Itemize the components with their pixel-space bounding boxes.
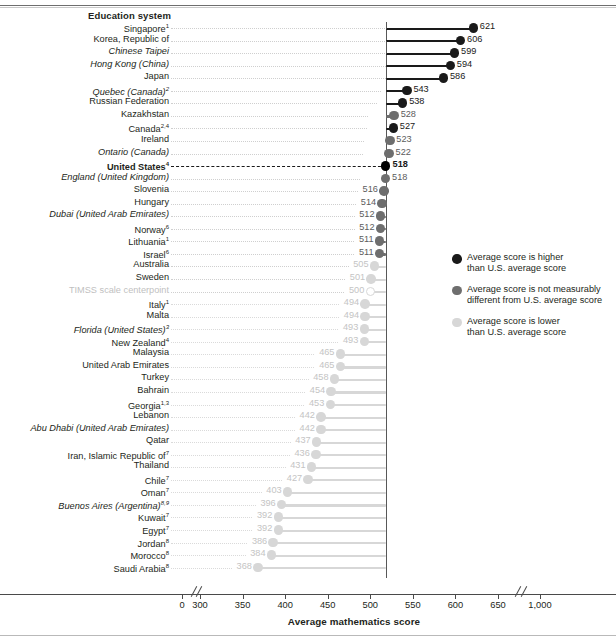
value-dot — [469, 23, 479, 33]
row-label: Sweden — [0, 272, 169, 283]
value-dot — [398, 98, 408, 108]
value-label: 528 — [401, 109, 416, 120]
value-dot — [316, 425, 326, 435]
x-axis-line — [0, 594, 616, 595]
value-dot — [360, 337, 370, 347]
x-tick-label: 550 — [405, 600, 421, 610]
math-score-chart: Education system Singapore1621Korea, Rep… — [0, 0, 616, 636]
row-label: Chinese Taipei — [0, 46, 169, 57]
leader-line — [171, 216, 355, 218]
value-label: 403 — [262, 485, 282, 496]
value-label: 493 — [338, 335, 358, 346]
value-dot — [274, 525, 284, 535]
legend-item: Average score is higherthan U.S. average… — [452, 252, 616, 275]
value-label: 431 — [286, 460, 306, 471]
leader-line — [171, 179, 360, 181]
value-label: 505 — [349, 259, 369, 270]
value-dot — [267, 550, 277, 560]
value-dot — [316, 412, 326, 422]
leader-line — [171, 430, 295, 432]
value-label: 514 — [356, 197, 376, 208]
row-label: Kazakhstan — [0, 109, 169, 120]
row-label: Bahrain — [0, 385, 169, 396]
value-dot — [381, 161, 391, 171]
row-label: Abu Dhabi (United Arab Emirates) — [0, 423, 169, 434]
x-tick — [243, 594, 244, 599]
x-tick — [370, 594, 371, 599]
value-label: 501 — [345, 272, 365, 283]
value-stem — [321, 429, 386, 431]
value-stem — [386, 40, 461, 42]
row-label: Malaysia — [0, 347, 169, 358]
value-dot — [389, 111, 399, 121]
leader-line — [171, 292, 344, 294]
value-dot — [312, 437, 322, 447]
value-stem — [273, 542, 385, 544]
value-label: 594 — [457, 59, 472, 70]
value-dot — [376, 224, 386, 234]
leader-line — [171, 492, 262, 494]
leader-line — [171, 354, 314, 356]
row-label: Hungary — [0, 197, 169, 208]
value-dot — [274, 512, 284, 522]
value-label: 527 — [400, 121, 415, 132]
value-dot — [336, 349, 346, 359]
leader-line — [171, 279, 345, 281]
x-axis-title: Average mathematics score — [0, 616, 616, 627]
leader-line — [171, 342, 338, 344]
value-label: 606 — [467, 34, 482, 45]
value-label: 386 — [247, 536, 267, 547]
value-label: 518 — [393, 159, 408, 170]
value-label: 523 — [396, 134, 411, 145]
value-label: 599 — [461, 46, 476, 57]
value-stem — [288, 492, 386, 494]
x-tick — [413, 594, 414, 599]
value-dot — [326, 400, 336, 410]
legend-dot — [452, 318, 462, 328]
x-tick — [498, 594, 499, 599]
value-label: 543 — [413, 84, 428, 95]
row-label: Saudi Arabia8 — [0, 561, 169, 575]
leader-line — [171, 555, 246, 557]
value-label: 512 — [355, 209, 375, 220]
value-stem — [282, 504, 386, 506]
x-tick-label: 650 — [490, 600, 506, 610]
value-label: 621 — [480, 21, 495, 32]
value-stem — [272, 555, 386, 557]
row-label: United Arab Emirates — [0, 360, 169, 371]
value-dot — [326, 387, 336, 397]
value-label: 538 — [409, 96, 424, 107]
leader-line — [171, 204, 356, 206]
leader-line — [171, 78, 418, 80]
leader-line — [171, 317, 339, 319]
value-label: 512 — [355, 222, 375, 233]
row-label: Korea, Republic of — [0, 34, 169, 45]
axis-break-mark — [521, 586, 528, 597]
value-dot — [370, 261, 380, 271]
x-tick — [540, 594, 541, 599]
leader-line — [171, 367, 314, 369]
value-dot — [268, 538, 278, 548]
value-dot — [366, 287, 375, 296]
legend-item: Average score is not measurablydifferent… — [452, 284, 616, 307]
leader-line — [171, 304, 339, 306]
value-label: 494 — [339, 297, 359, 308]
value-label: 500 — [344, 285, 364, 296]
value-dot — [446, 61, 456, 71]
value-label: 493 — [338, 322, 358, 333]
value-stem — [278, 530, 385, 532]
value-stem — [386, 65, 451, 67]
value-dot — [384, 149, 394, 159]
value-dot — [389, 123, 399, 133]
value-dot — [283, 487, 293, 497]
legend-label: Average score is lowerthan U.S. average … — [467, 316, 616, 339]
leader-line — [171, 467, 286, 469]
value-stem — [386, 78, 444, 80]
leader-line — [171, 568, 232, 570]
value-stem — [278, 517, 385, 519]
x-tick — [455, 594, 456, 599]
x-tick-label: 450 — [320, 600, 336, 610]
value-label: 427 — [282, 473, 302, 484]
value-dot — [366, 274, 376, 284]
leader-line — [171, 91, 381, 93]
